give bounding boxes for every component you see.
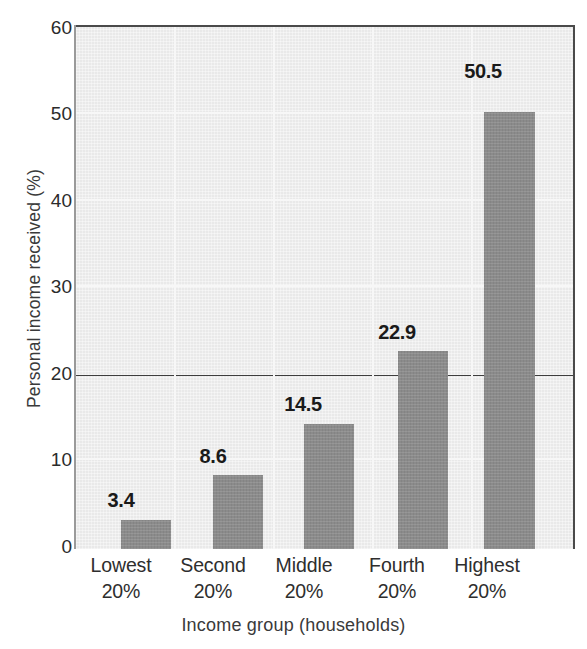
bar-value-label-lowest: 3.4 [96,490,146,510]
bar-lowest-20 [121,520,171,549]
x-category-label-lowest: Lowest 20% [86,553,156,604]
x-category-line2: 20% [361,579,433,605]
y-tick-label-60: 60 [28,18,72,37]
gridline-x-1 [174,27,176,549]
bar-value-label-second: 8.6 [188,446,238,466]
bar-texture [213,475,263,549]
x-category-line2: 20% [177,579,249,605]
bar-texture [304,424,354,549]
x-category-label-fourth: Fourth 20% [361,553,433,604]
bar-chart-figure: Personal income received (%) 60 50 40 30… [0,0,587,649]
gridline-x-2 [273,27,275,549]
bar-fourth-20 [398,351,448,549]
gridline-x-3 [372,27,374,549]
y-axis-tick-labels: 60 50 40 30 20 10 0 [24,0,72,649]
bar-texture [398,351,448,549]
y-tick-label-0: 0 [28,537,72,556]
x-category-label-highest: Highest 20% [449,553,525,604]
x-category-line2: 20% [86,579,156,605]
x-axis-title: Income group (households) [0,615,587,636]
x-category-line2: 20% [268,579,340,605]
bar-highest-20 [484,112,535,549]
x-category-line1: Second [180,554,246,576]
gridline-x-4 [471,27,473,549]
x-category-label-middle: Middle 20% [268,553,340,604]
x-category-line2: 20% [449,579,525,605]
x-category-line1: Highest [454,554,519,576]
plot-area [76,25,575,549]
y-tick-label-50: 50 [28,104,72,123]
y-tick-label-10: 10 [28,450,72,469]
bar-texture [121,520,171,549]
y-tick-label-30: 30 [28,277,72,296]
x-category-label-second: Second 20% [177,553,249,604]
x-category-line1: Lowest [90,554,151,576]
x-category-line1: Fourth [369,554,425,576]
bar-value-label-highest: 50.5 [457,61,509,81]
y-tick-label-20: 20 [28,364,72,383]
bar-texture [484,112,535,549]
bar-middle-20 [304,424,354,549]
y-tick-label-40: 40 [28,191,72,210]
bar-value-label-fourth: 22.9 [371,322,423,342]
x-category-line1: Middle [276,554,333,576]
bar-value-label-middle: 14.5 [277,394,329,414]
bar-second-20 [213,475,263,549]
